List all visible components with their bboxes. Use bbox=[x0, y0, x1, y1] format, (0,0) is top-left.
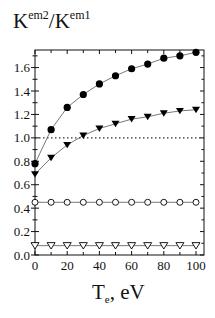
filled-circles-line bbox=[35, 52, 196, 163]
data-point-open-circle bbox=[32, 199, 38, 205]
y-tick-label: 0.0 bbox=[14, 248, 30, 263]
data-point-filled-circle bbox=[31, 160, 38, 167]
y-tick-label: 1.2 bbox=[14, 107, 30, 122]
data-point-open-circle bbox=[96, 199, 102, 205]
y-tick-label: 1.0 bbox=[14, 130, 30, 145]
data-point-filled-triangle bbox=[160, 110, 168, 116]
data-point-filled-circle bbox=[176, 52, 183, 59]
data-point-filled-circle bbox=[80, 91, 87, 98]
plot-area: 0204060801000.00.20.40.60.81.01.21.41.6 bbox=[0, 0, 215, 318]
x-tick-label: 100 bbox=[186, 258, 206, 273]
data-point-open-circle bbox=[80, 199, 86, 205]
data-point-open-circle bbox=[145, 199, 151, 205]
x-tick-label: 20 bbox=[61, 258, 74, 273]
data-point-open-circle bbox=[113, 199, 119, 205]
data-point-filled-circle bbox=[192, 49, 199, 56]
data-point-filled-circle bbox=[144, 60, 151, 67]
data-point-filled-circle bbox=[48, 126, 55, 133]
data-point-open-circle bbox=[64, 199, 70, 205]
data-point-filled-circle bbox=[160, 55, 167, 62]
data-point-filled-circle bbox=[112, 72, 119, 79]
data-point-open-circle bbox=[129, 199, 135, 205]
data-point-filled-circle bbox=[64, 104, 71, 111]
x-tick-label: 80 bbox=[157, 258, 170, 273]
data-point-open-circle bbox=[193, 199, 199, 205]
x-tick-label: 0 bbox=[32, 258, 39, 273]
data-point-open-circle bbox=[161, 199, 167, 205]
y-tick-label: 1.4 bbox=[14, 84, 31, 99]
x-tick-label: 40 bbox=[93, 258, 106, 273]
y-tick-label: 0.4 bbox=[14, 201, 31, 216]
y-tick-label: 1.6 bbox=[14, 60, 31, 75]
data-point-filled-circle bbox=[96, 80, 103, 87]
data-point-open-circle bbox=[48, 199, 54, 205]
data-point-filled-triangle bbox=[31, 171, 39, 177]
plot-frame bbox=[35, 50, 204, 255]
data-point-filled-triangle bbox=[128, 116, 136, 122]
data-point-filled-circle bbox=[128, 65, 135, 72]
y-tick-label: 0.6 bbox=[14, 177, 31, 192]
data-point-open-circle bbox=[177, 199, 183, 205]
data-point-filled-triangle bbox=[112, 121, 120, 127]
y-tick-label: 0.2 bbox=[14, 224, 30, 239]
y-tick-label: 0.8 bbox=[14, 154, 30, 169]
filled-triangles-line bbox=[35, 110, 196, 174]
x-axis-title: Te, eV bbox=[92, 280, 145, 305]
x-tick-label: 60 bbox=[125, 258, 138, 273]
data-point-filled-triangle bbox=[95, 125, 103, 131]
